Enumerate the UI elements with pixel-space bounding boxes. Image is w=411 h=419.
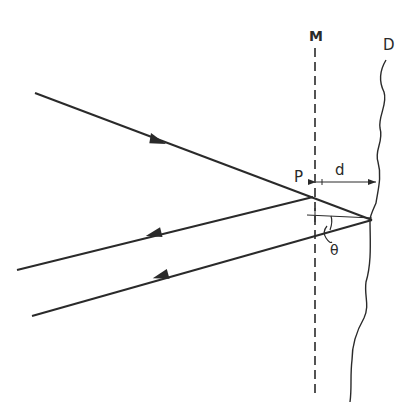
reflected-ray-1 <box>17 197 313 270</box>
reflection-diagram: M D P d θ <box>0 0 411 419</box>
incident-ray <box>35 93 372 220</box>
angle-label: θ <box>330 242 339 258</box>
point-label: P <box>294 168 303 186</box>
mirror-label: M <box>309 28 323 44</box>
reflected-ray-2 <box>32 220 372 316</box>
angle-arc <box>330 216 332 230</box>
surface-label: D <box>383 36 395 54</box>
surface-line <box>350 60 386 402</box>
distance-label: d <box>335 161 345 179</box>
